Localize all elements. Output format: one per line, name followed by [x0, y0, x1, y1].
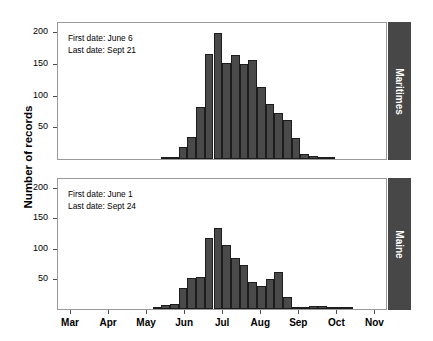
histogram-bar — [248, 282, 257, 309]
x-axis-tick-label: Nov — [354, 317, 394, 328]
histogram-bar — [161, 305, 170, 309]
strip-label-maritimes: Maritimes — [388, 22, 411, 160]
histogram-bar — [240, 64, 249, 159]
histogram-bar — [318, 306, 327, 309]
histogram-bar — [222, 63, 231, 159]
x-axis-tick — [298, 310, 299, 314]
x-axis-tick — [374, 310, 375, 314]
x-axis-tick-label: Oct — [316, 317, 356, 328]
figure-root: Number of records First date: June 6 Las… — [0, 0, 433, 341]
strip-label-text: Maritimes — [394, 68, 405, 115]
y-axis-tick — [53, 64, 57, 65]
x-axis-tick-label: Jun — [164, 317, 204, 328]
histogram-bar — [231, 55, 240, 159]
histogram-bar — [327, 157, 336, 159]
histogram-bar — [170, 304, 179, 309]
x-axis-tick-label: Sep — [278, 317, 318, 328]
x-axis-tick-label: Jul — [202, 317, 242, 328]
y-axis-tick-label: 100 — [18, 243, 48, 253]
histogram-bar — [161, 157, 170, 159]
x-axis-tick — [108, 310, 109, 314]
x-axis-tick-label: Apr — [88, 317, 128, 328]
histogram-bar — [179, 147, 188, 159]
x-axis-tick — [70, 310, 71, 314]
histogram-bar — [300, 154, 309, 159]
x-axis-tick — [222, 310, 223, 314]
x-axis-tick — [336, 310, 337, 314]
histogram-bar — [283, 297, 292, 309]
y-axis-tick — [53, 32, 57, 33]
panel-maine: First date: June 1 Last date: Sept 24 — [57, 178, 387, 310]
histogram-bar — [257, 87, 266, 159]
y-axis-tick — [53, 279, 57, 280]
histogram-bar — [248, 60, 257, 159]
histogram-bar — [240, 265, 249, 309]
x-axis-tick — [184, 310, 185, 314]
y-axis-tick — [53, 96, 57, 97]
histogram-bar — [196, 107, 205, 159]
y-axis-tick — [53, 249, 57, 250]
histogram-bar — [266, 279, 275, 309]
histogram-bar — [327, 307, 336, 309]
histogram-bar — [274, 272, 283, 309]
histogram-bar — [214, 228, 223, 309]
panel-maritimes: First date: June 6 Last date: Sept 21 — [57, 22, 387, 160]
histogram-bar — [196, 277, 205, 309]
histogram-bar — [274, 113, 283, 159]
histogram-bar — [318, 157, 327, 159]
y-axis-tick-label: 150 — [18, 58, 48, 68]
y-axis-tick-label: 200 — [18, 182, 48, 192]
histogram-bar — [187, 137, 196, 159]
histogram-bar — [335, 307, 344, 309]
histogram-bar — [292, 307, 301, 309]
histogram-bar — [205, 54, 214, 159]
histogram-bar — [179, 288, 188, 309]
histogram-bar — [153, 307, 162, 309]
histogram-bar — [309, 156, 318, 159]
x-axis-tick — [260, 310, 261, 314]
histogram-bar — [283, 120, 292, 159]
y-axis-tick-label: 50 — [18, 273, 48, 283]
x-axis-tick-label: Mar — [50, 317, 90, 328]
histogram-bar — [344, 307, 353, 309]
y-axis-tick-label: 50 — [18, 121, 48, 131]
y-axis-tick-label: 200 — [18, 26, 48, 36]
y-axis-tick-label: 150 — [18, 212, 48, 222]
y-axis-tick-label: 100 — [18, 90, 48, 100]
annotation-last-date: Last date: Sept 21 — [68, 44, 136, 57]
x-axis-tick — [146, 310, 147, 314]
histogram-bar — [300, 307, 309, 309]
y-axis-tick — [53, 218, 57, 219]
x-axis-tick-label: May — [126, 317, 166, 328]
histogram-bar — [205, 238, 214, 309]
histogram-bar — [292, 138, 301, 159]
y-axis-tick — [53, 188, 57, 189]
annotation-first-date: First date: June 1 — [68, 188, 133, 201]
histogram-bar — [222, 245, 231, 309]
annotation-first-date: First date: June 6 — [68, 32, 133, 45]
strip-label-text: Maine — [394, 230, 405, 258]
strip-label-maine: Maine — [388, 178, 411, 310]
histogram-bar — [187, 278, 196, 309]
histogram-bar — [257, 286, 266, 309]
histogram-bar — [266, 104, 275, 159]
histogram-bar — [309, 306, 318, 309]
y-axis-tick — [53, 127, 57, 128]
annotation-last-date: Last date: Sept 24 — [68, 200, 136, 213]
histogram-bar — [170, 157, 179, 159]
histogram-bar — [214, 33, 223, 160]
histogram-bar — [231, 258, 240, 309]
x-axis-tick-label: Aug — [240, 317, 280, 328]
